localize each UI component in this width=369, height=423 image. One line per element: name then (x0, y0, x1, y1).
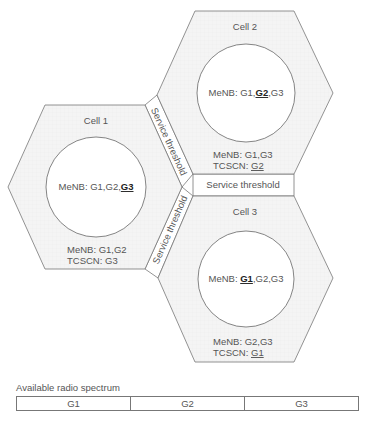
cell-3-outer-menb: MeNB: G2,G3 (213, 336, 273, 347)
cell-1: Cell 1 MeNB: G1,G2,G3 MeNB: G1,G2 TCSCN:… (8, 105, 182, 269)
cell-2-inner-label: MeNB: G1,G2,G3 (209, 87, 284, 98)
spectrum-bar: G1 G2 G3 (16, 396, 359, 411)
cell-3-title: Cell 3 (233, 206, 257, 217)
cell-diagram: Cell 2 MeNB: G1,G2,G3 MeNB: G1,G3 TCSCN:… (0, 0, 369, 423)
cell-3-inner-label: MeNB: G1,G2,G3 (209, 273, 284, 284)
spectrum-band-g2: G2 (131, 397, 245, 410)
cell-1-inner-label: MeNB: G1,G2,G3 (59, 181, 134, 192)
threshold-label-cell2-cell3: Service threshold (206, 179, 279, 190)
cell-2-outer-menb: MeNB: G1,G3 (213, 149, 273, 160)
cell-1-title: Cell 1 (84, 115, 108, 126)
cell-2-outer-tcscn: TCSCN: G2 (213, 160, 264, 171)
cell-1-outer-menb: MeNB: G1,G2 (67, 244, 127, 255)
spectrum-title: Available radio spectrum (16, 382, 120, 393)
spectrum-band-g1: G1 (17, 397, 131, 410)
cell-2-title: Cell 2 (233, 21, 257, 32)
spectrum-band-g3: G3 (245, 397, 358, 410)
cell-3: Cell 3 MeNB: G1,G2,G3 MeNB: G2,G3 TCSCN:… (158, 196, 333, 362)
cell-1-outer-tcscn: TCSCN: G3 (67, 255, 118, 266)
cell-2: Cell 2 MeNB: G1,G2,G3 MeNB: G1,G3 TCSCN:… (157, 11, 333, 174)
cell-3-outer-tcscn: TCSCN: G1 (213, 347, 264, 358)
